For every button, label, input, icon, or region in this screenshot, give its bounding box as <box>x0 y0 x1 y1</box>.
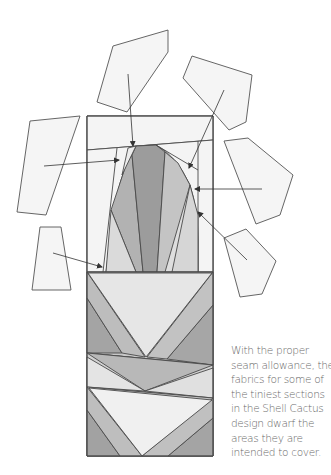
caption-line: With the proper <box>231 343 331 358</box>
figure-caption: With the proper seam allowance, the fabr… <box>231 343 331 460</box>
fabric-piece-top-center <box>97 30 168 112</box>
caption-line: the tiniest sections <box>231 387 331 402</box>
caption-line: in the Shell Cactus <box>231 401 331 416</box>
caption-line: design dwarf the <box>231 416 331 431</box>
fabric-piece-right-pentagon <box>224 138 293 224</box>
cactus-block <box>87 116 213 456</box>
caption-line: areas they are <box>231 431 331 446</box>
fabric-piece-right-lower <box>224 229 276 297</box>
caption-line: intended to cover. <box>231 445 331 460</box>
caption-line: seam allowance, the <box>231 358 331 373</box>
fabric-piece-left-trapezoid <box>32 227 71 290</box>
caption-line: fabrics for some of <box>231 372 331 387</box>
